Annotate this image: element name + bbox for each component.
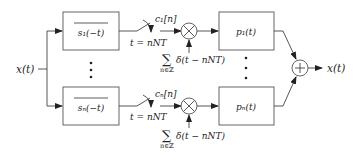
output-label: x(t) xyxy=(327,62,345,74)
sum-symbol-N: ∑ xyxy=(162,128,172,143)
sum-sub-N: n∈ℤ xyxy=(160,142,174,150)
sum-sub-1: n∈ℤ xyxy=(160,66,174,74)
impulse-label-1: δ(t − nNT) xyxy=(176,55,225,65)
synth-label-1: p₁(t) xyxy=(236,27,256,37)
branch-1: s₁(−t) c₁[n] t = nNT ∑ n∈ℤ δ(t − nNT) p₁… xyxy=(63,12,296,74)
sample-label-N: t = nNT xyxy=(130,112,168,122)
coef-label-N: cₙ[n] xyxy=(155,89,177,99)
synth-label-N: pₙ(t) xyxy=(236,102,257,112)
sample-label-1: t = nNT xyxy=(130,38,168,48)
branch-N: sₙ(−t) cₙ[n] t = nNT ∑ n∈ℤ δ(t − nNT) pₙ… xyxy=(63,77,296,150)
sampling-reconstruction-diagram: x(t) s₁(−t) c₁[n] t = nNT ∑ n∈ℤ δ(t − nN… xyxy=(0,0,361,162)
sum-symbol-1: ∑ xyxy=(162,52,172,67)
sampler-arc-1 xyxy=(143,20,151,32)
impulse-label-N: δ(t − nNT) xyxy=(176,131,225,141)
input-label: x(t) xyxy=(16,63,34,75)
filter-label-N: sₙ(−t) xyxy=(78,103,105,113)
filter-label-1: s₁(−t) xyxy=(78,28,105,38)
coef-label-1: c₁[n] xyxy=(155,14,177,24)
